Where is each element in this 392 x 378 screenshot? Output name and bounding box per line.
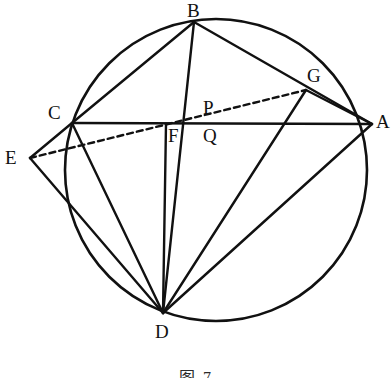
figure-root: ABCDGEFPQ 图 7 (0, 0, 392, 378)
vertex-label-q: Q (203, 126, 217, 145)
vertex-label-c: C (48, 103, 61, 122)
vertex-label-b: B (187, 1, 200, 20)
segment-C-A (72, 123, 372, 124)
segment-A-D (163, 124, 372, 313)
vertex-label-p: P (203, 98, 214, 117)
vertex-label-a: A (376, 112, 390, 131)
segment-E-D (30, 158, 163, 313)
segment-B-D (163, 22, 194, 313)
segment-G-A (306, 90, 372, 124)
segment-B-A (194, 22, 372, 124)
segment-B-C (72, 22, 194, 123)
vertex-label-g: G (307, 66, 321, 85)
geometry-canvas (0, 0, 392, 378)
vertex-label-e: E (5, 148, 17, 167)
figure-caption: 图 7 (0, 364, 392, 378)
vertex-label-d: D (155, 322, 169, 341)
vertex-label-f: F (168, 126, 179, 145)
